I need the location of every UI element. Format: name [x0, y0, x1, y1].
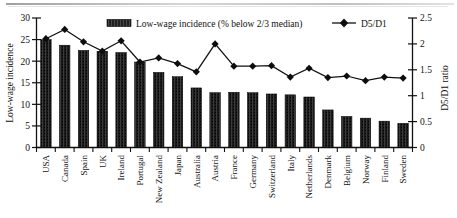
svg-text:2.5: 2.5: [420, 13, 432, 23]
category-label: France: [229, 155, 239, 180]
axis-lines: [36, 18, 413, 148]
svg-text:5: 5: [25, 121, 30, 131]
data-point-marker: [61, 26, 68, 33]
bar: [379, 121, 390, 147]
category-label: Belgium: [342, 155, 352, 186]
bar: [41, 40, 52, 148]
data-point-marker: [381, 73, 388, 80]
bar: [153, 72, 164, 147]
category-axis-ticks: [37, 148, 413, 153]
chart-legend: Low-wage incidence (% below 2/3 median) …: [107, 19, 387, 30]
chart-figure: 051015202530 00.511.522.5 USACanadaSpain…: [0, 0, 457, 218]
data-point-marker: [343, 72, 350, 79]
svg-text:1.5: 1.5: [420, 65, 432, 75]
svg-text:30: 30: [21, 13, 31, 23]
svg-text:0: 0: [25, 143, 30, 153]
category-label: Switzerland: [267, 155, 277, 198]
legend-bar-swatch: [107, 20, 131, 27]
chart-svg: 051015202530 00.511.522.5 USACanadaSpain…: [0, 0, 457, 218]
svg-text:0: 0: [420, 143, 425, 153]
bar: [229, 92, 240, 147]
category-label: Italy: [286, 155, 296, 172]
category-label: Sweden: [398, 155, 408, 184]
category-label: Portugal: [135, 155, 145, 186]
category-label: Netherlands: [304, 155, 314, 199]
data-point-marker: [80, 38, 87, 45]
bar: [247, 93, 258, 148]
legend-diamond-icon: [340, 19, 348, 28]
data-point-marker: [174, 60, 181, 67]
left-axis-ticks: 051015202530: [21, 13, 42, 153]
bar: [323, 110, 334, 148]
bar: [172, 77, 183, 148]
svg-text:0.5: 0.5: [420, 117, 432, 127]
svg-text:1: 1: [420, 91, 425, 101]
bar: [266, 94, 277, 148]
bar: [304, 97, 315, 148]
svg-text:2: 2: [420, 39, 425, 49]
bar: [116, 53, 127, 148]
category-label: Austria: [210, 155, 220, 182]
data-point-marker: [268, 62, 275, 69]
bar: [360, 118, 371, 147]
data-point-marker: [400, 74, 407, 81]
data-point-marker: [362, 77, 369, 84]
category-label: Spain: [79, 155, 89, 176]
svg-text:25: 25: [21, 35, 31, 45]
y-axis-title: Low-wage incidence: [5, 43, 15, 122]
category-label: Australia: [192, 155, 202, 188]
category-label: Finland: [380, 155, 390, 183]
bar: [191, 88, 202, 148]
legend-bar-label: Low-wage incidence (% below 2/3 median): [136, 19, 302, 30]
bar: [285, 95, 296, 148]
data-point-marker: [306, 65, 313, 72]
bar: [135, 62, 146, 147]
category-label: Norway: [361, 155, 371, 184]
category-label: UK: [98, 155, 108, 168]
category-label: Germany: [248, 155, 258, 189]
category-label: Japan: [173, 155, 183, 176]
category-label: USA: [41, 155, 51, 174]
category-label: Canada: [60, 155, 70, 182]
category-label: Ireland: [116, 155, 126, 181]
svg-text:20: 20: [21, 57, 31, 67]
data-point-marker: [287, 73, 294, 80]
data-point-marker: [249, 63, 256, 70]
data-point-marker: [155, 54, 162, 61]
bar: [341, 116, 352, 147]
bar: [59, 45, 70, 147]
bar: [97, 51, 108, 147]
data-point-marker: [193, 68, 200, 75]
bar: [398, 123, 409, 147]
category-labels: USACanadaSpainUKIrelandPortugalNew Zeala…: [41, 155, 408, 204]
category-label: New Zealand: [154, 155, 164, 204]
svg-text:10: 10: [21, 100, 31, 110]
right-axis-ticks: 00.511.522.5: [408, 13, 432, 153]
legend-line-label: D5/D1: [361, 19, 387, 29]
bar: [210, 93, 221, 148]
svg-text:15: 15: [21, 78, 31, 88]
bar: [78, 50, 89, 147]
y2-axis-title: D5/D1 ratio: [440, 65, 450, 111]
category-label: Denmark: [323, 155, 333, 189]
data-point-marker: [324, 74, 331, 81]
